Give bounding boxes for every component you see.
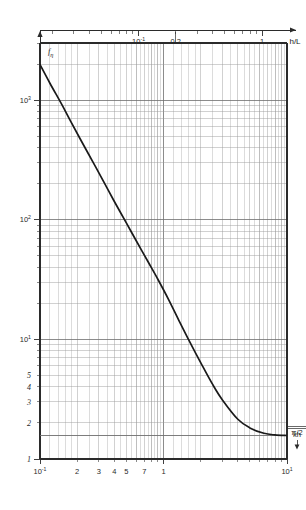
top-axis-tick-label: 1 <box>260 37 264 46</box>
y-axis-tick-label: 2 <box>27 419 31 428</box>
x-axis-title: kh <box>293 430 301 439</box>
y-axis-tick-label: 3 <box>26 398 31 407</box>
x-axis-tick-label: 7 <box>142 467 146 476</box>
x-axis-tick-label: 4 <box>112 467 116 476</box>
y-axis-tick-label: 4 <box>27 383 31 392</box>
log-log-chart-canvas: 10-10.21h/L10-123457110110310210154321fη… <box>0 0 306 510</box>
top-axis-title: h/L <box>289 37 301 46</box>
x-axis-tick-label: 2 <box>75 467 79 476</box>
chart-figure: 10-10.21h/L10-123457110110310210154321fη… <box>0 0 306 510</box>
x-axis-tick-label: 3 <box>97 467 101 476</box>
x-axis-tick-label: 5 <box>124 467 128 476</box>
y-axis-tick-label: 1 <box>27 455 31 464</box>
x-axis-tick-label: 1 <box>161 467 165 476</box>
y-axis-tick-label: 5 <box>27 371 31 380</box>
